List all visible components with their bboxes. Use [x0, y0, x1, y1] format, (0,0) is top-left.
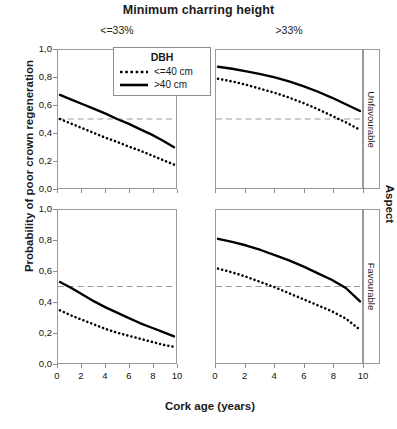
x-axis-tick-label: 10: [355, 370, 371, 381]
panel-favourable-low: [57, 209, 177, 364]
series-line-large-dbh: [218, 239, 360, 302]
x-axis-tick-mark: [274, 364, 275, 368]
y-axis-tick-mark: [53, 105, 57, 106]
y-axis-tick-mark: [53, 77, 57, 78]
y-axis-tick-label: 0,2: [22, 155, 52, 166]
x-axis-tick-mark: [363, 364, 364, 368]
y-axis-tick-label: 1,0: [22, 203, 52, 214]
legend: DBH <=40 cm >40 cm: [113, 47, 211, 96]
y-axis-tick-mark: [53, 333, 57, 334]
y-axis-tick-mark: [53, 161, 57, 162]
y-axis-tick-label: 0,8: [22, 71, 52, 82]
y-axis-tick-mark: [53, 302, 57, 303]
column-header-high-charring: >33%: [215, 24, 363, 36]
y-axis-tick-mark: [53, 49, 57, 50]
x-axis-tick-mark: [177, 189, 178, 193]
y-axis-tick-label: 1,0: [22, 43, 52, 54]
x-axis-tick-mark: [153, 364, 154, 368]
row-strip-favourable-label: Favourable: [366, 263, 377, 311]
panel-plot-area: [216, 50, 362, 188]
x-axis-tick-mark: [129, 364, 130, 368]
x-axis-tick-mark: [215, 364, 216, 368]
panel-plot-area: [58, 210, 176, 363]
column-header-low-charring: <=33%: [57, 24, 177, 36]
legend-swatch-dotted: [119, 68, 149, 76]
panel-plot-area: [216, 210, 362, 363]
x-axis-tick-mark: [81, 364, 82, 368]
figure: Minimum charring height <=33% >33% Proba…: [0, 0, 397, 429]
x-axis-tick-label: 2: [73, 370, 89, 381]
x-axis-tick-mark: [81, 189, 82, 193]
y-axis-tick-label: 0,0: [22, 183, 52, 194]
x-axis-tick-label: 2: [237, 370, 253, 381]
row-strip-unfavourable: Unfavourable: [363, 49, 380, 189]
series-line-large-dbh: [218, 67, 360, 111]
y-axis-tick-label: 0,4: [22, 127, 52, 138]
figure-title: Minimum charring height: [0, 3, 397, 17]
x-axis-tick-mark: [363, 189, 364, 193]
x-axis-tick-label: 4: [266, 370, 282, 381]
x-axis-tick-mark: [333, 364, 334, 368]
x-axis-tick-mark: [215, 189, 216, 193]
y-axis-tick-label: 0,4: [22, 296, 52, 307]
x-axis-tick-mark: [177, 364, 178, 368]
series-line-small-dbh: [218, 79, 360, 130]
x-axis-tick-mark: [153, 189, 154, 193]
x-axis-tick-mark: [304, 364, 305, 368]
row-strip-favourable: Favourable: [363, 209, 380, 364]
legend-entry-large-dbh: >40 cm: [119, 79, 205, 90]
x-axis-tick-mark: [129, 189, 130, 193]
y-axis-tick-label: 0,0: [22, 358, 52, 369]
legend-swatch-solid: [119, 81, 149, 89]
x-axis-tick-mark: [245, 364, 246, 368]
y-axis-tick-label: 0,6: [22, 265, 52, 276]
x-axis-tick-label: 0: [207, 370, 223, 381]
legend-entry-small-dbh: <=40 cm: [119, 66, 205, 77]
y-axis-tick-label: 0,2: [22, 327, 52, 338]
x-axis-tick-mark: [105, 189, 106, 193]
y-axis-tick-mark: [53, 133, 57, 134]
series-line-small-dbh: [218, 269, 360, 330]
row-strip-unfavourable-label: Unfavourable: [366, 91, 377, 148]
legend-title: DBH: [119, 51, 205, 63]
legend-label-large-dbh: >40 cm: [154, 79, 187, 90]
x-axis-tick-mark: [304, 189, 305, 193]
x-axis-tick-mark: [274, 189, 275, 193]
y-axis-tick-mark: [53, 271, 57, 272]
legend-label-small-dbh: <=40 cm: [154, 66, 193, 77]
series-line-large-dbh: [60, 282, 174, 336]
x-axis-tick-label: 6: [121, 370, 137, 381]
y-axis-tick-label: 0,6: [22, 99, 52, 110]
panel-favourable-high: [215, 209, 363, 364]
x-axis-tick-mark: [333, 189, 334, 193]
panel-unfavourable-high: [215, 49, 363, 189]
x-axis-label: Cork age (years): [57, 400, 363, 412]
x-axis-tick-mark: [245, 189, 246, 193]
x-axis-tick-label: 6: [296, 370, 312, 381]
strip-title-aspect: Aspect: [384, 144, 396, 264]
x-axis-tick-mark: [57, 189, 58, 193]
x-axis-tick-label: 8: [145, 370, 161, 381]
series-line-large-dbh: [60, 95, 174, 147]
x-axis-tick-mark: [57, 364, 58, 368]
x-axis-tick-label: 8: [325, 370, 341, 381]
x-axis-tick-mark: [105, 364, 106, 368]
series-line-small-dbh: [60, 119, 174, 165]
y-axis-tick-mark: [53, 240, 57, 241]
x-axis-tick-label: 10: [169, 370, 185, 381]
x-axis-tick-label: 4: [97, 370, 113, 381]
x-axis-tick-label: 0: [49, 370, 65, 381]
y-axis-tick-label: 0,8: [22, 234, 52, 245]
y-axis-tick-mark: [53, 209, 57, 210]
